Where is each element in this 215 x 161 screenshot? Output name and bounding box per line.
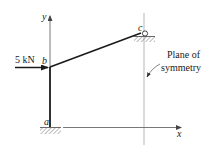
roller-icon [142, 31, 147, 36]
node-label-b: b [42, 55, 47, 66]
roller-support-hatch [134, 37, 155, 42]
fixed-support-hatch [40, 128, 61, 134]
node-label-c: c [138, 22, 143, 33]
symmetry-label-line1: Plane of [167, 49, 201, 60]
load-label: 5 kN [15, 54, 35, 65]
x-axis-label: x [176, 128, 182, 139]
y-axis-label: y [41, 11, 47, 22]
member-bc [50, 33, 141, 67]
symmetry-leader-arrow [147, 64, 160, 77]
node-label-a: a [44, 116, 49, 127]
frame-diagram: y x a c b 5 kN Plane of symmetry [0, 0, 215, 161]
symmetry-label-line2: symmetry [161, 62, 201, 73]
